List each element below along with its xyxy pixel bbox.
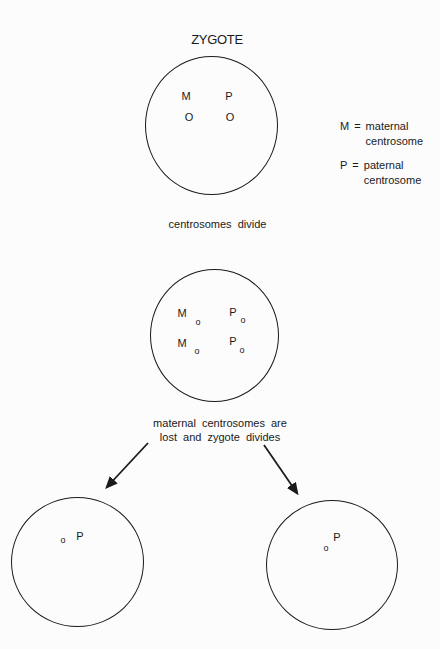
legend-symbol-m: M bbox=[340, 119, 349, 149]
paternal-centrosome-label: P bbox=[229, 306, 236, 318]
legend-entry-paternal: P = paternal centrosome bbox=[340, 158, 423, 188]
stage2-caption: maternal centrosomes are lost and zygote… bbox=[110, 416, 330, 444]
legend: M = maternal centrosome P = paternal cen… bbox=[340, 119, 423, 188]
paternal-centrosome-marker: o bbox=[239, 345, 244, 355]
maternal-centrosome-label: M bbox=[177, 307, 186, 319]
paternal-centrosome-label: P bbox=[229, 335, 236, 347]
legend-def-line1: maternal bbox=[366, 120, 409, 132]
legend-definition-paternal: paternal centrosome bbox=[364, 158, 421, 188]
paternal-centrosome-label: P bbox=[225, 90, 232, 102]
arrow-to-right-daughter-icon bbox=[264, 445, 297, 493]
legend-def-line2: centrosome bbox=[364, 174, 421, 186]
stage2-caption-line2: lost and zygote divides bbox=[160, 431, 280, 443]
stage1-caption: centrosomes divide bbox=[110, 217, 325, 231]
paternal-centrosome-marker: O bbox=[226, 111, 235, 123]
legend-entry-maternal: M = maternal centrosome bbox=[340, 119, 423, 149]
paternal-centrosome-marker: o bbox=[323, 543, 328, 553]
daughter-cell-left-circle bbox=[11, 497, 144, 627]
arrow-to-left-daughter-icon bbox=[107, 443, 148, 487]
legend-definition-maternal: maternal centrosome bbox=[366, 119, 423, 149]
maternal-centrosome-label: M bbox=[177, 337, 186, 349]
maternal-centrosome-label: M bbox=[181, 90, 190, 102]
legend-equals: = bbox=[352, 158, 358, 188]
paternal-centrosome-marker: o bbox=[60, 535, 65, 545]
zygote-divided-centrosomes-circle bbox=[150, 269, 279, 402]
legend-symbol-p: P bbox=[340, 158, 347, 188]
maternal-centrosome-marker: O bbox=[185, 111, 194, 123]
legend-equals: = bbox=[354, 119, 360, 149]
daughter-cell-right-circle bbox=[266, 500, 398, 630]
maternal-centrosome-marker: o bbox=[195, 317, 200, 327]
zygote-cell-circle bbox=[145, 56, 278, 195]
diagram-title: ZYGOTE bbox=[191, 32, 243, 47]
zygote-centrosome-diagram: ZYGOTE M P O O M = maternal centrosome P… bbox=[0, 0, 440, 649]
legend-def-line1: paternal bbox=[364, 159, 404, 171]
paternal-centrosome-label: P bbox=[76, 530, 83, 542]
paternal-centrosome-marker: o bbox=[240, 315, 245, 325]
legend-def-line2: centrosome bbox=[366, 135, 423, 147]
maternal-centrosome-marker: o bbox=[194, 346, 199, 356]
paternal-centrosome-label: P bbox=[333, 531, 340, 543]
stage2-caption-line1: maternal centrosomes are bbox=[153, 417, 287, 429]
